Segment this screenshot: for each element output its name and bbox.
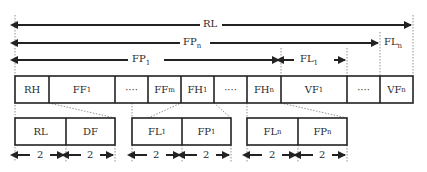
cell-sub: n <box>327 128 332 136</box>
cell-text: FF <box>154 84 168 95</box>
label-FPn: FPn <box>181 36 203 52</box>
size-label: 2 <box>87 149 93 161</box>
size-label: 2 <box>319 149 325 161</box>
cell-sub: 1 <box>319 86 323 94</box>
cell-text: FL <box>263 126 277 137</box>
cell-sub: n <box>401 86 406 94</box>
cell-text: FL <box>148 126 162 137</box>
cell-text: RH <box>24 84 40 95</box>
label-text: RL <box>203 18 217 29</box>
sub-cell-FL1: FL1 <box>132 118 182 145</box>
cell-text: FF <box>73 84 87 95</box>
cell-RH: RH <box>15 76 49 103</box>
cell-text: VF <box>305 84 319 95</box>
cell-text: ···· <box>357 84 370 95</box>
cell-VF1: VF1 <box>281 76 347 103</box>
size-label: 2 <box>153 149 159 161</box>
label-FP1: FP1 <box>130 53 152 69</box>
sub-cell-FP1: FP1 <box>182 118 231 145</box>
cell-FHn: FHn <box>247 76 281 103</box>
cell-FF1: FF1 <box>49 76 115 103</box>
cell-sub: m <box>168 86 175 94</box>
label-sub: 1 <box>314 59 318 67</box>
sub-cell-RL: RL <box>15 118 66 145</box>
label-sub: n <box>398 42 403 50</box>
cell-sub: n <box>277 128 282 136</box>
cell-text: FP <box>197 126 211 137</box>
cell-sub: 1 <box>87 86 91 94</box>
label-text: FL <box>384 36 398 47</box>
sub-cell-FPn: FPn <box>298 118 347 145</box>
cell-text: RL <box>33 126 47 137</box>
cell-sub: 1 <box>162 128 166 136</box>
label-FL1: FL1 <box>298 53 320 69</box>
label-FLn: FLn <box>382 36 404 52</box>
cell-sub: n <box>270 86 275 94</box>
cell-text: FP <box>313 126 327 137</box>
cell-text: DF <box>83 126 98 137</box>
sub-cell-DF: DF <box>66 118 115 145</box>
cell-text: ···· <box>125 84 138 95</box>
cell-ellipsis-3: ···· <box>347 76 380 103</box>
size-label: 2 <box>269 149 275 161</box>
cell-VFn: VFn <box>380 76 413 103</box>
cell-text: FH <box>187 84 203 95</box>
cell-text: VF <box>387 84 401 95</box>
label-text: FP <box>183 36 197 47</box>
label-text: FL <box>300 53 314 64</box>
label-RL: RL <box>201 18 219 30</box>
cell-text: ···· <box>224 84 237 95</box>
length-arrows <box>17 25 411 60</box>
size-label: 2 <box>37 149 43 161</box>
size-label: 2 <box>203 149 209 161</box>
sub-cell-FLn: FLn <box>247 118 298 145</box>
cell-sub: 1 <box>211 128 215 136</box>
cell-ellipsis-1: ···· <box>115 76 148 103</box>
label-sub: n <box>197 42 202 50</box>
cell-sub: 1 <box>203 86 207 94</box>
cell-FFm: FFm <box>148 76 181 103</box>
label-text: FP <box>132 53 146 64</box>
cell-FH1: FH1 <box>181 76 214 103</box>
cell-ellipsis-2: ···· <box>214 76 247 103</box>
cell-text: FH <box>254 84 270 95</box>
label-sub: 1 <box>146 59 150 67</box>
